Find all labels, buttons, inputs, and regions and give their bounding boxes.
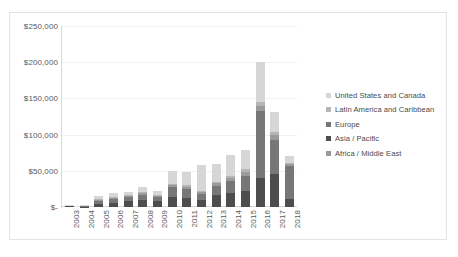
bar-segment[interactable]: [168, 197, 177, 207]
legend-item[interactable]: Africa / Middle East: [326, 146, 451, 161]
legend-swatch-icon: [326, 93, 331, 98]
y-axis-tick-label: $150,000: [24, 94, 58, 103]
x-axis-tick-label: 2018: [293, 210, 302, 228]
bar-column[interactable]: [121, 26, 136, 207]
bar-segment[interactable]: [212, 195, 221, 207]
bar-column[interactable]: [238, 26, 253, 207]
x-axis-tick: 2011: [180, 209, 195, 243]
x-axis-tick: 2018: [282, 209, 297, 243]
y-axis-tick-label: $-: [51, 203, 58, 212]
bar-segment[interactable]: [153, 201, 162, 207]
bar-segment[interactable]: [226, 155, 235, 176]
legend-item[interactable]: Latin America and Caribbean: [326, 103, 451, 118]
bar-stack: [226, 155, 235, 207]
legend-item-label: United States and Canada: [335, 91, 425, 100]
x-axis-tick: 2004: [77, 209, 92, 243]
bar-stack: [256, 62, 265, 207]
bar-stack: [285, 156, 294, 207]
bar-segment[interactable]: [256, 111, 265, 178]
bar-column[interactable]: [282, 26, 297, 207]
x-axis-tick: 2003: [62, 209, 77, 243]
bar-segment[interactable]: [182, 198, 191, 207]
legend-item[interactable]: United States and Canada: [326, 88, 451, 103]
x-axis-tick: 2014: [224, 209, 239, 243]
legend-item-label: Latin America and Caribbean: [335, 105, 434, 114]
bar-column[interactable]: [106, 26, 121, 207]
y-axis-tick-label: $100,000: [24, 130, 58, 139]
bar-column[interactable]: [62, 26, 77, 207]
y-axis-tick-label: $200,000: [24, 58, 58, 67]
bar-stack: [124, 192, 133, 207]
bar-segment[interactable]: [124, 201, 133, 207]
legend-item-label: Europe: [335, 120, 360, 129]
bar-stack: [138, 187, 147, 207]
bar-stack: [270, 112, 279, 207]
x-axis-tick: 2008: [135, 209, 150, 243]
bar-segment[interactable]: [65, 206, 74, 207]
bar-segment[interactable]: [212, 186, 221, 195]
x-axis-tick: 2006: [106, 209, 121, 243]
bar-stack: [80, 205, 89, 207]
x-axis-tick: 2016: [253, 209, 268, 243]
x-axis-tick: 2007: [121, 209, 136, 243]
legend-swatch-icon: [326, 107, 331, 112]
chart-legend: United States and CanadaLatin America an…: [326, 88, 451, 161]
legend-item-label: Asia / Pacific: [335, 134, 379, 143]
chart-screenshot: $-$50,000$100,000$150,000$200,000$250,00…: [0, 0, 458, 257]
bar-stack: [109, 193, 118, 207]
bar-column[interactable]: [150, 26, 165, 207]
bar-segment[interactable]: [285, 156, 294, 163]
bar-segment[interactable]: [168, 187, 177, 196]
legend-item[interactable]: Asia / Pacific: [326, 132, 451, 147]
bar-segment[interactable]: [241, 150, 250, 170]
bar-column[interactable]: [77, 26, 92, 207]
legend-swatch-icon: [326, 122, 331, 127]
x-axis-tick: 2005: [91, 209, 106, 243]
bar-segment[interactable]: [212, 164, 221, 181]
bar-segment[interactable]: [285, 166, 294, 199]
bar-column[interactable]: [180, 26, 195, 207]
bar-segment[interactable]: [197, 165, 206, 191]
bar-column[interactable]: [91, 26, 106, 207]
bar-column[interactable]: [135, 26, 150, 207]
bar-column[interactable]: [224, 26, 239, 207]
bar-series-group: [62, 26, 297, 207]
bar-segment[interactable]: [241, 191, 250, 207]
x-axis-tick: 2013: [209, 209, 224, 243]
bar-segment[interactable]: [138, 200, 147, 207]
y-axis-tick-label: $50,000: [28, 166, 58, 175]
bar-segment[interactable]: [197, 200, 206, 207]
bar-segment[interactable]: [256, 178, 265, 207]
bar-column[interactable]: [253, 26, 268, 207]
bar-column[interactable]: [194, 26, 209, 207]
bar-stack: [168, 171, 177, 207]
bar-segment[interactable]: [168, 171, 177, 183]
x-axis-tick: 2012: [194, 209, 209, 243]
bar-stack: [212, 164, 221, 207]
bar-segment[interactable]: [182, 172, 191, 186]
bar-segment[interactable]: [182, 189, 191, 198]
bar-column[interactable]: [268, 26, 283, 207]
plot-area: [62, 26, 297, 207]
bar-column[interactable]: [209, 26, 224, 207]
legend-swatch-icon: [326, 151, 331, 156]
x-axis-tick: 2009: [150, 209, 165, 243]
bar-segment[interactable]: [109, 203, 118, 207]
y-axis-labels: $-$50,000$100,000$150,000$200,000$250,00…: [12, 26, 58, 207]
bar-segment[interactable]: [226, 181, 235, 193]
bar-segment[interactable]: [94, 204, 103, 207]
bar-segment[interactable]: [226, 193, 235, 207]
bar-column[interactable]: [165, 26, 180, 207]
legend-item[interactable]: Europe: [326, 117, 451, 132]
bar-segment[interactable]: [256, 62, 265, 102]
x-axis-tick: 2017: [268, 209, 283, 243]
bar-stack: [94, 196, 103, 207]
bar-segment[interactable]: [241, 176, 250, 191]
x-axis-labels: 2003200420052006200720082009201020112012…: [62, 209, 297, 243]
legend-swatch-icon: [326, 136, 331, 141]
bar-stack: [197, 165, 206, 207]
bar-segment[interactable]: [270, 140, 279, 174]
bar-segment[interactable]: [285, 199, 294, 207]
bar-segment[interactable]: [270, 112, 279, 132]
bar-segment[interactable]: [270, 174, 279, 207]
